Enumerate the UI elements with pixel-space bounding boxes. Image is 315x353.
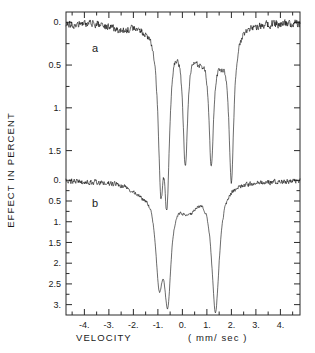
moessbauer-spectrum-figure: -4.-3.-2.-1.0.1.2.3.4. 0.0.51.1.5 0.0.51…: [0, 0, 315, 353]
x-tick-label: 3.: [252, 320, 260, 330]
y-tick-label: 0.: [53, 17, 61, 27]
x-tick-label: -3.: [104, 320, 115, 330]
x-axis-ticks: [72, 12, 293, 315]
x-tick-label: 1.: [203, 320, 211, 330]
y-tick-label: 0.5: [48, 60, 61, 70]
x-tick-label: 4.: [277, 320, 285, 330]
spectrum-trace-b: [66, 179, 300, 313]
y-axis-title: EFFECT IN PERCENT: [5, 112, 16, 228]
y-tick-label: 0.5: [48, 196, 61, 206]
y-axis-ticks-panel-a: [66, 22, 300, 150]
y-tick-label: 0.: [53, 175, 61, 185]
x-tick-label: 0.: [179, 320, 187, 330]
x-axis-units: ( mm/ sec ): [188, 332, 248, 343]
panel-label-b: b: [92, 197, 98, 209]
x-tick-label: -1.: [153, 320, 164, 330]
y-axis-tick-labels-panel-b: 0.0.51.1.52.2.53.: [48, 175, 61, 309]
x-axis-tick-labels: -4.-3.-2.-1.0.1.2.3.4.: [79, 320, 284, 330]
y-tick-label: 2.5: [48, 279, 61, 289]
y-tick-label: 3.: [53, 300, 61, 310]
y-tick-label: 1.5: [48, 146, 61, 156]
y-axis-ticks-panel-b: [66, 180, 300, 304]
y-tick-label: 1.5: [48, 238, 61, 248]
x-tick-label: 2.: [228, 320, 236, 330]
x-axis-title: VELOCITY: [76, 332, 132, 343]
y-tick-label: 2.: [53, 258, 61, 268]
y-tick-label: 1.: [53, 103, 61, 113]
x-tick-label: -2.: [128, 320, 139, 330]
y-tick-label: 1.: [53, 217, 61, 227]
panel-label-a: a: [92, 42, 99, 54]
y-axis-tick-labels-panel-a: 0.0.51.1.5: [48, 17, 61, 155]
spectrum-plot-svg: -4.-3.-2.-1.0.1.2.3.4. 0.0.51.1.5 0.0.51…: [0, 0, 315, 353]
x-tick-label: -4.: [79, 320, 90, 330]
plot-frame: [66, 12, 300, 315]
